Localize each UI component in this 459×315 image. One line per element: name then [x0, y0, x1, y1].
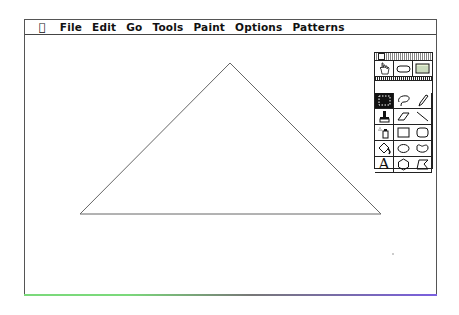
tool-lasso[interactable]: [394, 93, 413, 109]
tool-field[interactable]: [413, 61, 432, 77]
tool-round-rect[interactable]: [413, 125, 432, 141]
tool-eraser[interactable]: [394, 109, 413, 125]
menu-patterns[interactable]: Patterns: [293, 21, 345, 33]
window-bottom-edge: [24, 294, 437, 296]
round-rect-icon: [415, 126, 430, 139]
tool-rectangle[interactable]: [394, 125, 413, 141]
tool-brush[interactable]: [375, 109, 394, 125]
close-box-icon[interactable]: [378, 53, 385, 60]
menu-bar:  File Edit Go Tools Paint Options Patte…: [25, 20, 436, 35]
rectangle-icon: [396, 126, 411, 139]
lasso-icon: [396, 94, 411, 107]
tool-button[interactable]: [394, 61, 413, 77]
hexagon-icon: [396, 158, 411, 171]
brush-icon: [377, 110, 392, 123]
menu-file[interactable]: File: [60, 21, 82, 33]
menu-paint[interactable]: Paint: [194, 21, 226, 33]
button-icon: [396, 62, 411, 75]
hypercard-window:  File Edit Go Tools Paint Options Patte…: [24, 19, 437, 295]
eraser-icon: [396, 110, 411, 123]
curve-icon: [415, 142, 430, 155]
paint-bucket-icon: [377, 142, 392, 155]
tool-regular-polygon[interactable]: [394, 157, 413, 173]
stray-dot: [392, 253, 394, 255]
tool-spray[interactable]: [375, 125, 394, 141]
hand-icon: [377, 62, 392, 75]
select-rect-icon: [377, 94, 392, 107]
tool-select[interactable]: [375, 93, 394, 109]
text-icon: A: [379, 158, 390, 171]
apple-icon[interactable]: : [39, 21, 46, 34]
palette-title-bar[interactable]: [375, 53, 432, 61]
menu-options[interactable]: Options: [235, 21, 282, 33]
tool-polygon[interactable]: [413, 157, 432, 173]
menu-go[interactable]: Go: [126, 21, 142, 33]
tool-line[interactable]: [413, 109, 432, 125]
polygon-icon: [415, 158, 430, 171]
tool-browse[interactable]: [375, 61, 394, 77]
pencil-icon: [415, 94, 430, 107]
paint-canvas[interactable]: A: [25, 35, 436, 294]
menu-edit[interactable]: Edit: [92, 21, 116, 33]
field-icon: [415, 62, 430, 75]
oval-icon: [396, 142, 411, 155]
line-icon: [415, 110, 430, 123]
palette-separator: [375, 77, 432, 81]
tool-text[interactable]: A: [375, 157, 394, 173]
tool-palette[interactable]: A: [374, 52, 433, 169]
menu-tools[interactable]: Tools: [152, 21, 183, 33]
spray-can-icon: [377, 126, 392, 139]
tool-curve[interactable]: [413, 141, 432, 157]
tool-oval[interactable]: [394, 141, 413, 157]
tool-pencil[interactable]: [413, 93, 432, 109]
